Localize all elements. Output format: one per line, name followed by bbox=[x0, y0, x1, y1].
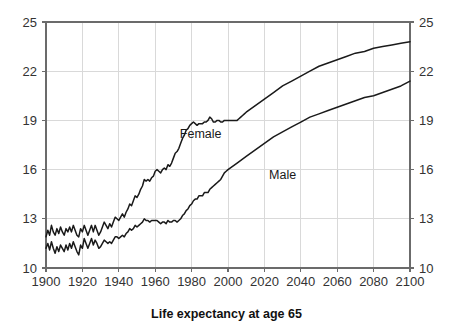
y-tick-label-right-1: 13 bbox=[419, 211, 433, 226]
x-tick-label-8: 2060 bbox=[323, 274, 352, 289]
y-tick-label-left-2: 16 bbox=[23, 162, 37, 177]
y-tick-label-right-2: 16 bbox=[419, 162, 433, 177]
y-tick-label-left-4: 22 bbox=[23, 64, 37, 79]
y-axis-labels-right: 101316192225 bbox=[419, 15, 433, 276]
x-tick-label-6: 2020 bbox=[250, 274, 279, 289]
x-tick-label-0: 1900 bbox=[32, 274, 61, 289]
y-tick-label-right-3: 19 bbox=[419, 113, 433, 128]
y-tick-label-left-1: 13 bbox=[23, 211, 37, 226]
x-tick-label-2: 1940 bbox=[104, 274, 133, 289]
series-annotation-male: Male bbox=[269, 168, 296, 182]
x-axis-labels: 1900192019401960198020002020204020602080… bbox=[32, 274, 425, 289]
x-tick-label-1: 1920 bbox=[68, 274, 97, 289]
life-expectancy-line-chart: 101316192225 101316192225 19001920194019… bbox=[0, 0, 453, 331]
x-tick-label-9: 2080 bbox=[359, 274, 388, 289]
x-tick-label-3: 1960 bbox=[141, 274, 170, 289]
x-tick-label-5: 2000 bbox=[214, 274, 243, 289]
chart-title: Life expectancy at age 65 bbox=[151, 307, 302, 321]
x-tick-label-4: 1980 bbox=[177, 274, 206, 289]
y-tick-label-right-5: 25 bbox=[419, 15, 433, 30]
x-tick-label-10: 2100 bbox=[396, 274, 425, 289]
series-annotation-female: Female bbox=[180, 127, 222, 141]
x-tick-label-7: 2040 bbox=[286, 274, 315, 289]
y-tick-label-left-3: 19 bbox=[23, 113, 37, 128]
y-axis-labels-left: 101316192225 bbox=[23, 15, 37, 276]
chart-container: 101316192225 101316192225 19001920194019… bbox=[0, 0, 453, 331]
y-tick-label-right-4: 22 bbox=[419, 64, 433, 79]
y-tick-label-left-5: 25 bbox=[23, 15, 37, 30]
